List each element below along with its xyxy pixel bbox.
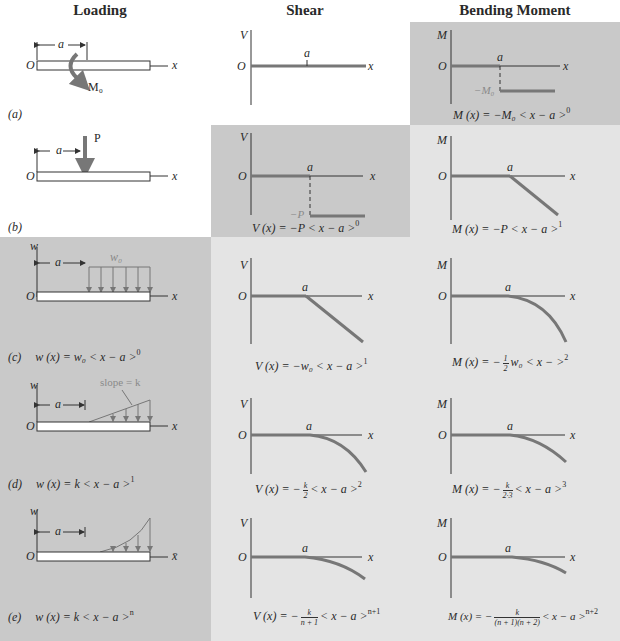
equation-text: M (x) = − <box>452 355 501 369</box>
v-axis-label: V <box>240 258 247 273</box>
moment-equation-a: M (x) = −M₀ < x − a >0 <box>453 106 570 123</box>
equation-exponent: n <box>130 608 134 617</box>
equation-fraction: k2 <box>303 481 309 500</box>
m-axis-label: M <box>437 28 447 43</box>
case-tag-c: (c) <box>8 350 21 364</box>
m-axis-label: M <box>437 397 447 412</box>
equation-exponent: 1 <box>558 220 562 229</box>
v-axis-label: V <box>240 130 247 145</box>
w-axis-label: w <box>30 504 38 519</box>
diagram-graphics <box>0 0 620 641</box>
equation-exponent: 2 <box>564 353 568 362</box>
origin-label: O <box>438 289 447 304</box>
dim-label-a: a <box>505 541 511 556</box>
x-label: x <box>172 169 177 184</box>
origin-label: O <box>238 428 247 443</box>
fraction-denominator: n + 1 <box>301 618 318 627</box>
fraction-denominator: 2 <box>503 364 509 373</box>
dim-label-a: a <box>304 46 310 61</box>
distributed-load-label: w₀ <box>110 250 122 265</box>
equation-exponent: 2 <box>358 480 362 489</box>
origin-label: O <box>26 58 35 73</box>
dim-label-a: a <box>55 524 61 539</box>
fraction-numerator: k <box>303 481 309 491</box>
equation-exponent: n+1 <box>368 607 381 616</box>
moment-level-label: −M₀ <box>474 84 494 96</box>
v-axis-label: V <box>240 28 247 43</box>
dim-label-a: a <box>55 255 61 270</box>
origin-label: O <box>238 550 247 565</box>
origin-label: O <box>238 169 247 184</box>
w-axis-label: w <box>30 239 38 254</box>
fraction-numerator: k <box>503 481 513 491</box>
m-axis-label: M <box>437 258 447 273</box>
shear-equation-d: V (x) = −k2< x − a >2 <box>255 480 362 500</box>
origin-label: O <box>237 59 246 74</box>
origin-label: O <box>438 428 447 443</box>
load-equation-d: (d)w (x) = k < x − a >1 <box>8 475 134 492</box>
case-tag-a: (a) <box>8 107 22 122</box>
x-label: x <box>172 58 177 73</box>
equation-text: M (x) = − <box>452 482 501 496</box>
x-label: x <box>368 289 373 304</box>
fraction-numerator: k <box>494 608 539 618</box>
equation-text: V (x) = − <box>255 482 301 496</box>
dim-label-a: a <box>497 50 503 65</box>
fraction-numerator: k <box>301 608 318 618</box>
equation-fraction: 12 <box>503 354 509 373</box>
x-label: x <box>368 59 373 74</box>
equation-text: M (x) = −P < x − a > <box>452 222 558 236</box>
dim-label-a: a <box>507 419 513 434</box>
x-label: x <box>368 550 373 565</box>
equation-text: V (x) = −w₀ < x − a > <box>255 359 363 373</box>
x-label: x <box>570 169 575 184</box>
x-label: x <box>570 428 575 443</box>
dim-label-a: a <box>306 419 312 434</box>
equation-text: w₀ < x − > <box>511 355 565 369</box>
dim-label-a: a <box>302 280 308 295</box>
equation-fraction: k2·3 <box>503 481 513 500</box>
origin-label: O <box>438 169 447 184</box>
case-tag-b: (b) <box>8 220 22 235</box>
origin-label: O <box>26 169 35 184</box>
shear-equation-c: V (x) = −w₀ < x − a >1 <box>255 357 367 374</box>
x-label: x <box>172 419 177 434</box>
equation-text: w (x) = k < x − a > <box>35 610 129 624</box>
origin-label: O <box>26 549 35 564</box>
fraction-denominator: 2 <box>303 491 309 500</box>
origin-label: O <box>26 289 35 304</box>
equation-text: V (x) = − <box>253 609 299 623</box>
moment-equation-b: M (x) = −P < x − a >1 <box>452 220 562 237</box>
beam-a <box>37 42 168 84</box>
x-label: x <box>570 550 575 565</box>
origin-label: O <box>238 289 247 304</box>
equation-exponent: 0 <box>137 348 141 357</box>
dim-label-a: a <box>302 541 308 556</box>
load-equation-c: (c)w (x) = w₀ < x − a >0 <box>8 348 141 365</box>
shear-equation-b: V (x) = −P < x − a >0 <box>252 219 359 236</box>
origin-label: O <box>438 550 447 565</box>
equation-exponent: 0 <box>566 106 570 115</box>
load-equation-e: (e)w (x) = k < x − a >n <box>8 608 134 625</box>
m-axis-label: M <box>437 133 447 148</box>
dim-label-a: a <box>55 397 61 412</box>
x-label: x <box>370 169 375 184</box>
dim-label-a: a <box>58 37 64 52</box>
moment-equation-d: M (x) = −k2·3< x − a >3 <box>452 480 566 500</box>
equation-text: < x − a > <box>542 610 586 622</box>
slope-label: slope = k <box>100 376 140 388</box>
equation-text: M (x) = − <box>448 610 492 622</box>
x-bar-label: x̄ <box>172 549 177 564</box>
equation-text: w (x) = w₀ < x − a > <box>35 350 136 364</box>
fraction-numerator: 1 <box>503 354 509 364</box>
point-load-label: P <box>94 131 101 146</box>
w-axis-label: w <box>30 378 38 393</box>
moment-equation-c: M (x) = −12w₀ < x − >2 <box>452 353 568 373</box>
equation-text: w (x) = k < x − a > <box>36 477 130 491</box>
equation-text: M (x) = −M₀ < x − a > <box>453 108 566 122</box>
origin-label: O <box>26 419 35 434</box>
case-tag-e: (e) <box>8 610 21 624</box>
equation-fraction: k(n + 1)(n + 2) <box>494 608 539 627</box>
equation-exponent: 3 <box>562 480 566 489</box>
dim-label-a: a <box>505 280 511 295</box>
